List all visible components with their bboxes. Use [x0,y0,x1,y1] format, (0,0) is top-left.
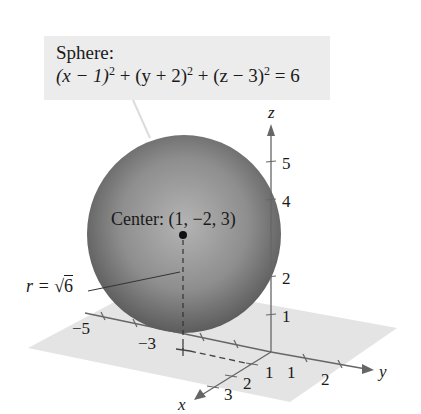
z-tick-2: 2 [282,270,291,287]
y-tick-2: 2 [321,371,330,388]
radius-label: r = √6 [26,277,73,295]
z-tick-4: 4 [282,193,291,210]
z-axis-label: z [268,104,275,121]
x-tick-1: 1 [265,364,274,381]
center-point [179,231,187,239]
y-axis-arrow-icon [362,364,374,374]
sphere-equation: (x − 1)2 + (y + 2)2 + (z − 3)2 = 6 [56,64,300,87]
z-tick-5: 5 [282,155,291,172]
y-tick-1: 1 [287,364,296,381]
eq-term-y: + (y + 2) [115,65,187,86]
sphere-title: Sphere: [56,42,114,64]
eq-rhs: = 6 [270,65,300,86]
x-tick-3: 3 [224,386,233,403]
x-axis-arrow-icon [194,389,206,400]
y-tick-neg5: −5 [72,320,90,337]
z-tick-1: 1 [282,308,291,325]
eq-term-z: + (z − 3) [193,65,264,86]
y-axis-label: y [379,363,387,380]
y-tick-neg3: −3 [138,335,156,352]
x-axis-label: x [178,396,186,413]
z-axis-arrow-icon [267,124,275,136]
eq-term-x: (x − 1) [56,65,109,86]
x-tick-2: 2 [243,375,252,392]
center-label: Center: (1, −2, 3) [111,210,236,228]
label-pointer-line [133,100,150,138]
